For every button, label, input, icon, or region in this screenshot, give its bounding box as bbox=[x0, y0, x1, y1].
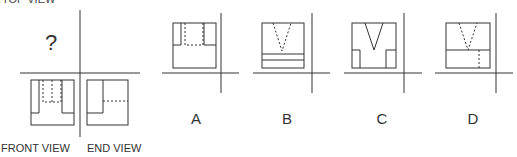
option-d-drawing bbox=[435, 13, 513, 93]
front-view-label: FRONT VIEW bbox=[1, 142, 70, 154]
option-d-label[interactable]: D bbox=[468, 110, 479, 127]
option-b-label[interactable]: B bbox=[282, 110, 292, 127]
unknown-view-symbol: ? bbox=[45, 30, 57, 56]
end-view-drawing bbox=[87, 80, 128, 125]
top-view-label: TOP VIEW bbox=[2, 0, 55, 5]
option-a-drawing bbox=[162, 13, 239, 93]
option-b-drawing bbox=[253, 13, 330, 93]
drawing-canvas bbox=[0, 0, 517, 157]
option-c-label[interactable]: C bbox=[377, 110, 388, 127]
option-a-label[interactable]: A bbox=[191, 110, 201, 127]
end-view-label: END VIEW bbox=[87, 142, 141, 154]
front-view-drawing bbox=[31, 80, 74, 125]
option-c-drawing bbox=[344, 13, 422, 93]
